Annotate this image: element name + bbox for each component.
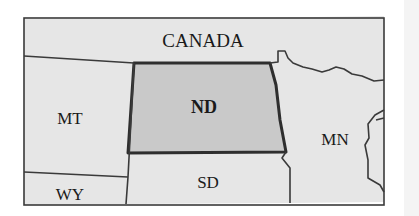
- label-wy: WY: [56, 185, 84, 204]
- label-canada: CANADA: [162, 30, 244, 51]
- north-dakota-locator-map: CANADA MT ND MN SD WY: [0, 0, 419, 216]
- label-mn: MN: [321, 130, 348, 149]
- label-nd: ND: [191, 97, 217, 117]
- label-sd: SD: [197, 173, 219, 192]
- map-canvas: CANADA MT ND MN SD WY: [0, 0, 419, 216]
- page-edge-strip: [404, 0, 419, 216]
- label-mt: MT: [57, 109, 83, 128]
